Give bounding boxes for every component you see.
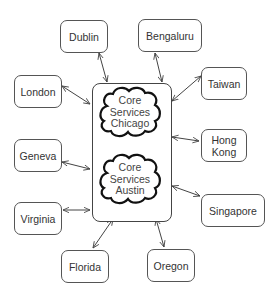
node-singapore: Singapore (201, 194, 265, 227)
node-label: Dublin (69, 31, 99, 43)
node-geneva: Geneva (14, 139, 62, 172)
node-virginia: Virginia (14, 202, 62, 235)
cloud-label-austin: Core Services Austin (100, 162, 160, 197)
node-label: Taiwan (208, 78, 241, 90)
node-london: London (14, 75, 62, 108)
edge-singapore (172, 186, 200, 196)
node-bengaluru: Bengaluru (138, 19, 202, 52)
edge-bengaluru (155, 53, 162, 82)
node-taiwan: Taiwan (201, 67, 247, 100)
node-label: Florida (69, 261, 101, 273)
node-label: Geneva (20, 150, 57, 162)
core-services-container: Core Services Chicago Core Services Aust… (92, 83, 172, 222)
edge-london (62, 86, 90, 104)
cloud-label-chicago: Core Services Chicago (100, 95, 160, 130)
edge-oregon (156, 219, 164, 247)
edge-taiwan (172, 76, 201, 101)
cloud-line: Core (100, 95, 160, 107)
cloud-line: Chicago (100, 118, 160, 130)
node-label: Kong (212, 146, 237, 158)
node-hong-kong: Hong Kong (201, 129, 247, 162)
edge-florida (93, 219, 113, 248)
node-dublin: Dublin (60, 20, 108, 53)
node-label: Oregon (153, 260, 188, 272)
node-oregon: Oregon (147, 249, 195, 282)
node-label: Bengaluru (146, 30, 194, 42)
node-florida: Florida (61, 250, 109, 283)
node-label: Singapore (209, 205, 257, 217)
cloud-line: Core (100, 162, 160, 174)
node-label: Virginia (21, 213, 56, 225)
node-label: London (20, 86, 55, 98)
edge-geneva (62, 162, 90, 169)
node-label: Hong (211, 134, 236, 146)
edge-hong-kong (172, 137, 199, 141)
cloud-line: Austin (100, 185, 160, 197)
edge-dublin (99, 53, 107, 82)
